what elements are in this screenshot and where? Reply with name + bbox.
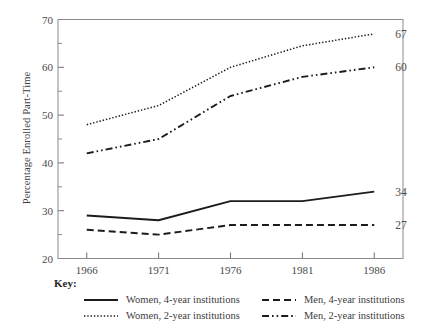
y-tick-label: 30	[42, 205, 54, 217]
series-end-labels: 34276760	[395, 28, 407, 231]
y-axis-minor-ticks	[58, 43, 62, 234]
legend-entry: Women, 2-year institutions	[84, 310, 262, 321]
y-tick-label: 20	[42, 253, 54, 265]
series-end-label: 34	[395, 186, 407, 198]
legend-line-swatch	[84, 311, 118, 321]
x-axis-ticks	[87, 253, 375, 259]
legend: Key: Women, 4-year institutionsMen, 4-ye…	[54, 277, 424, 321]
x-axis-tick-labels: 19661971197619811986	[76, 264, 386, 276]
legend-entry: Women, 4-year institutions	[84, 294, 262, 305]
series-line	[87, 192, 375, 221]
series-end-label: 27	[395, 219, 407, 231]
series-line	[87, 67, 375, 153]
legend-line-swatch	[262, 311, 296, 321]
chart-figure: Percentage Enrolled Part-Time 2030405060…	[0, 0, 432, 333]
series-line	[87, 225, 375, 235]
legend-label: Women, 2-year institutions	[126, 310, 240, 321]
legend-entry: Men, 4-year institutions	[262, 294, 432, 305]
legend-label: Men, 2-year institutions	[304, 310, 405, 321]
y-tick-label: 70	[42, 14, 54, 26]
series-end-label: 67	[395, 28, 407, 40]
x-tick-label: 1981	[291, 264, 313, 276]
y-axis-tick-labels: 203040506070	[42, 14, 54, 265]
x-tick-label: 1971	[148, 264, 170, 276]
series-line	[87, 34, 375, 125]
legend-label: Men, 4-year institutions	[304, 294, 405, 305]
x-tick-label: 1976	[220, 264, 243, 276]
legend-label: Women, 4-year institutions	[126, 294, 240, 305]
y-tick-label: 50	[42, 109, 54, 121]
legend-entries: Women, 4-year institutionsMen, 4-year in…	[84, 294, 424, 321]
legend-title: Key:	[54, 277, 424, 289]
x-tick-label: 1966	[76, 264, 99, 276]
plot-frame	[58, 20, 403, 259]
series-end-label: 60	[395, 61, 407, 73]
legend-line-swatch	[262, 295, 296, 305]
data-series-group	[87, 34, 375, 235]
legend-line-swatch	[84, 295, 118, 305]
y-tick-label: 40	[42, 157, 54, 169]
legend-entry: Men, 2-year institutions	[262, 310, 432, 321]
x-tick-label: 1986	[363, 264, 386, 276]
y-tick-label: 60	[42, 61, 54, 73]
